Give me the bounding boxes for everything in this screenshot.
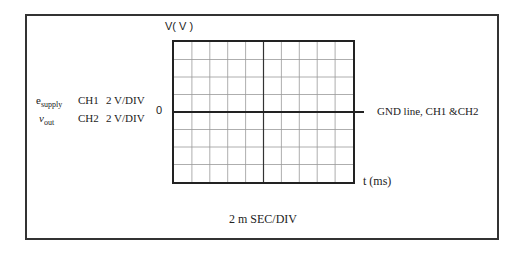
time-base-label: 2 m SEC/DIV: [229, 212, 297, 227]
channel-2-signal: vout: [39, 112, 54, 127]
channel-2-scale: 2 V/DIV: [106, 112, 145, 124]
zero-label: 0: [156, 104, 162, 116]
channel-1-signal: esupply: [36, 94, 62, 109]
gnd-label: GND line, CH1 &CH2: [377, 105, 478, 117]
channel-1-scale: 2 V/DIV: [106, 94, 145, 106]
gnd-line: [172, 111, 364, 113]
channel-1-name: CH1: [78, 94, 99, 106]
x-axis-label: t (ms): [363, 174, 391, 189]
channel-2-name: CH2: [78, 112, 99, 124]
y-axis-label: V( V ): [165, 20, 193, 32]
